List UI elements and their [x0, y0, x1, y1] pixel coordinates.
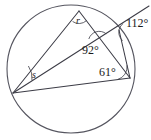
- label-angle-92: 92°: [82, 44, 99, 56]
- label-angle-r: r: [76, 16, 80, 26]
- label-angle-s: s: [32, 70, 36, 80]
- geometry-diagram: r 112° 92° 61° s: [0, 0, 151, 140]
- label-angle-112: 112°: [126, 17, 148, 29]
- chord-left-right: [13, 78, 130, 93]
- label-angle-61: 61°: [99, 66, 116, 78]
- chord-top-left: [13, 11, 79, 93]
